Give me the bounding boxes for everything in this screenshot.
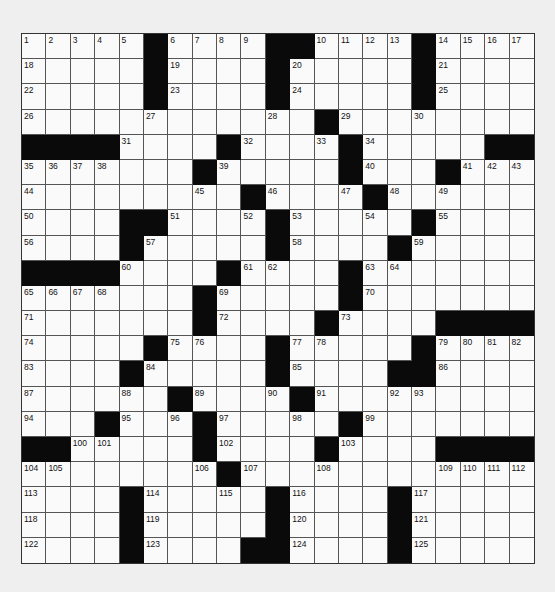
grid-cell[interactable]	[193, 84, 217, 109]
grid-cell[interactable]: 98	[290, 412, 314, 437]
grid-cell[interactable]	[144, 311, 168, 336]
grid-cell[interactable]	[315, 286, 339, 311]
grid-cell[interactable]	[168, 261, 192, 286]
grid-cell[interactable]: 52	[241, 210, 265, 235]
grid-cell[interactable]	[241, 361, 265, 386]
grid-cell[interactable]: 24	[290, 84, 314, 109]
grid-cell[interactable]: 41	[461, 160, 485, 185]
grid-cell[interactable]	[168, 311, 192, 336]
grid-cell[interactable]	[461, 110, 485, 135]
grid-cell[interactable]	[168, 437, 192, 462]
grid-cell[interactable]: 53	[290, 210, 314, 235]
grid-cell[interactable]	[95, 84, 119, 109]
grid-cell[interactable]	[510, 210, 534, 235]
grid-cell[interactable]: 60	[120, 261, 144, 286]
grid-cell[interactable]: 118	[22, 513, 46, 538]
grid-cell[interactable]	[217, 59, 241, 84]
grid-cell[interactable]	[168, 160, 192, 185]
grid-cell[interactable]	[46, 110, 70, 135]
grid-cell[interactable]	[388, 59, 412, 84]
grid-cell[interactable]	[120, 59, 144, 84]
grid-cell[interactable]	[71, 185, 95, 210]
grid-cell[interactable]: 79	[436, 336, 460, 361]
grid-cell[interactable]	[266, 462, 290, 487]
grid-cell[interactable]	[363, 336, 387, 361]
grid-cell[interactable]	[168, 538, 192, 563]
grid-cell[interactable]	[388, 160, 412, 185]
grid-cell[interactable]	[510, 84, 534, 109]
grid-cell[interactable]	[485, 412, 509, 437]
grid-cell[interactable]	[241, 336, 265, 361]
grid-cell[interactable]	[485, 110, 509, 135]
grid-cell[interactable]: 10	[315, 34, 339, 59]
grid-cell[interactable]	[168, 487, 192, 512]
grid-cell[interactable]: 87	[22, 387, 46, 412]
grid-cell[interactable]	[217, 538, 241, 563]
grid-cell[interactable]: 20	[290, 59, 314, 84]
grid-cell[interactable]	[217, 84, 241, 109]
grid-cell[interactable]: 100	[71, 437, 95, 462]
grid-cell[interactable]	[46, 487, 70, 512]
grid-cell[interactable]	[71, 487, 95, 512]
grid-cell[interactable]: 33	[315, 135, 339, 160]
grid-cell[interactable]: 61	[241, 261, 265, 286]
grid-cell[interactable]	[193, 59, 217, 84]
grid-cell[interactable]	[485, 513, 509, 538]
grid-cell[interactable]: 22	[22, 84, 46, 109]
grid-cell[interactable]	[46, 513, 70, 538]
grid-cell[interactable]	[315, 538, 339, 563]
grid-cell[interactable]	[436, 135, 460, 160]
grid-cell[interactable]: 59	[412, 236, 436, 261]
grid-cell[interactable]	[120, 462, 144, 487]
grid-cell[interactable]: 35	[22, 160, 46, 185]
grid-cell[interactable]	[46, 236, 70, 261]
grid-cell[interactable]: 88	[120, 387, 144, 412]
grid-cell[interactable]	[363, 437, 387, 462]
grid-cell[interactable]	[120, 336, 144, 361]
grid-cell[interactable]	[363, 361, 387, 386]
grid-cell[interactable]: 120	[290, 513, 314, 538]
grid-cell[interactable]	[461, 236, 485, 261]
grid-cell[interactable]	[71, 236, 95, 261]
grid-cell[interactable]	[315, 236, 339, 261]
grid-cell[interactable]	[339, 513, 363, 538]
grid-cell[interactable]	[510, 236, 534, 261]
grid-cell[interactable]	[266, 160, 290, 185]
grid-cell[interactable]: 43	[510, 160, 534, 185]
grid-cell[interactable]	[363, 387, 387, 412]
grid-cell[interactable]: 36	[46, 160, 70, 185]
grid-cell[interactable]: 103	[339, 437, 363, 462]
grid-cell[interactable]	[120, 110, 144, 135]
grid-cell[interactable]	[71, 361, 95, 386]
grid-cell[interactable]	[71, 538, 95, 563]
grid-cell[interactable]: 40	[363, 160, 387, 185]
grid-cell[interactable]	[241, 387, 265, 412]
grid-cell[interactable]	[193, 210, 217, 235]
grid-cell[interactable]: 105	[46, 462, 70, 487]
grid-cell[interactable]	[95, 361, 119, 386]
grid-cell[interactable]	[461, 84, 485, 109]
grid-cell[interactable]	[388, 462, 412, 487]
grid-cell[interactable]: 70	[363, 286, 387, 311]
grid-cell[interactable]: 92	[388, 387, 412, 412]
grid-cell[interactable]: 58	[290, 236, 314, 261]
grid-cell[interactable]: 4	[95, 34, 119, 59]
grid-cell[interactable]	[485, 261, 509, 286]
grid-cell[interactable]	[315, 261, 339, 286]
grid-cell[interactable]	[388, 110, 412, 135]
grid-cell[interactable]: 51	[168, 210, 192, 235]
grid-cell[interactable]	[339, 84, 363, 109]
grid-cell[interactable]	[290, 286, 314, 311]
grid-cell[interactable]	[217, 210, 241, 235]
grid-cell[interactable]	[290, 185, 314, 210]
grid-cell[interactable]	[95, 185, 119, 210]
grid-cell[interactable]: 111	[485, 462, 509, 487]
grid-cell[interactable]	[217, 236, 241, 261]
grid-cell[interactable]: 13	[388, 34, 412, 59]
grid-cell[interactable]	[46, 361, 70, 386]
grid-cell[interactable]	[412, 462, 436, 487]
grid-cell[interactable]: 108	[315, 462, 339, 487]
grid-cell[interactable]	[266, 135, 290, 160]
grid-cell[interactable]: 57	[144, 236, 168, 261]
grid-cell[interactable]	[339, 236, 363, 261]
